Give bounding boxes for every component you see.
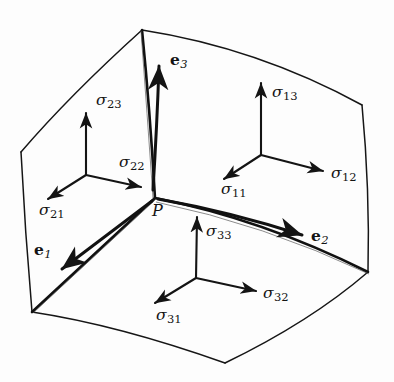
sigma-32-symbol: σ — [263, 284, 274, 302]
label-sigma-23: σ23 — [96, 93, 122, 111]
sigma-21-subscript: 21 — [50, 207, 64, 221]
sigma-21-arrow — [48, 175, 86, 199]
label-sigma-31: σ31 — [156, 308, 182, 326]
sigma-31-symbol: σ — [156, 306, 167, 324]
figure-drawing — [0, 0, 394, 382]
e1-symbol: e — [34, 240, 44, 259]
outline-edge-right — [362, 105, 368, 272]
sigma-32-arrow — [196, 278, 256, 291]
sigma-32-subscript: 32 — [274, 290, 288, 304]
sigma-33-symbol: σ — [206, 222, 217, 240]
edge-P-to-right-thin — [156, 202, 369, 274]
label-sigma-21: σ21 — [39, 203, 65, 221]
sigma-11-arrow — [224, 155, 261, 179]
sigma-12-arrow — [261, 155, 323, 171]
outline-edge-bottom-left — [32, 312, 225, 363]
sigma-21-symbol: σ — [39, 201, 50, 219]
element-outline — [21, 30, 368, 363]
label-e1: e1 — [34, 242, 52, 261]
e1-arrow — [62, 201, 152, 269]
label-sigma-12: σ12 — [331, 166, 357, 184]
sigma-11-subscript: 11 — [232, 186, 246, 200]
sigma-13-subscript: 13 — [283, 89, 297, 103]
outline-edge-bottom-right — [225, 272, 368, 363]
label-point-P: P — [152, 203, 163, 219]
outline-edge-top-left — [21, 30, 142, 152]
sigma-33-subscript: 33 — [217, 228, 231, 242]
label-sigma-11: σ11 — [221, 182, 247, 200]
label-sigma-13: σ13 — [272, 85, 298, 103]
e3-subscript: 3 — [180, 57, 187, 71]
stress-element-figure: σ23 σ22 σ21 σ13 σ12 σ11 σ33 σ32 σ31 e3 e… — [0, 0, 394, 382]
sigma-22-subscript: 22 — [130, 159, 144, 173]
label-e2: e2 — [311, 228, 329, 247]
e3-arrow — [153, 66, 159, 190]
sigma-33-arrow — [196, 217, 197, 278]
e3-symbol: e — [170, 50, 180, 69]
label-sigma-22: σ22 — [119, 155, 145, 173]
sigma-31-arrow — [155, 278, 196, 303]
sigma-13-symbol: σ — [272, 83, 283, 101]
internal-corner-edges — [32, 30, 368, 312]
sigma-22-arrow — [86, 175, 141, 187]
label-sigma-33: σ33 — [206, 224, 232, 242]
sigma-23-subscript: 23 — [107, 97, 121, 111]
outline-edge-left — [21, 152, 32, 312]
e1-subscript: 1 — [44, 247, 51, 261]
sigma-12-subscript: 12 — [342, 170, 356, 184]
sigma-22-symbol: σ — [119, 153, 130, 171]
label-sigma-32: σ32 — [263, 286, 289, 304]
sigma-31-subscript: 31 — [167, 312, 181, 326]
sigma-11-symbol: σ — [221, 180, 232, 198]
sigma-12-symbol: σ — [331, 164, 342, 182]
e2-symbol: e — [311, 226, 321, 245]
label-e3: e3 — [170, 52, 188, 71]
sigma-23-symbol: σ — [96, 91, 107, 109]
e2-subscript: 2 — [321, 233, 328, 247]
